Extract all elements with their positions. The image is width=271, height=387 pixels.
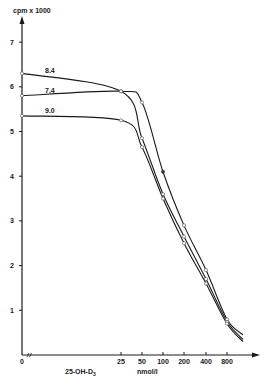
y-axis xyxy=(20,16,25,355)
chart-figure: 1234567 02550100200400800 cpm x 1000 25-… xyxy=(0,0,271,387)
data-point xyxy=(119,119,122,122)
data-point xyxy=(161,197,164,200)
x-tick-label: 200 xyxy=(178,358,190,365)
x-axis-unit: nmol/l xyxy=(137,368,158,375)
x-axis-title: 25-OH-D3 xyxy=(65,368,96,377)
series-label-9.0: 9.0 xyxy=(45,107,55,114)
curve-8.4 xyxy=(22,73,243,339)
data-point xyxy=(140,101,143,104)
curve-7.4 xyxy=(22,91,243,335)
y-tick-label: 1 xyxy=(10,307,14,314)
data-point xyxy=(119,90,122,93)
data-point xyxy=(161,170,164,173)
y-tick-label: 2 xyxy=(10,262,14,269)
y-axis-arrow-icon xyxy=(20,16,25,24)
data-point xyxy=(20,72,23,75)
x-tick-label: 0 xyxy=(20,358,24,365)
x-tick-label: 100 xyxy=(157,358,169,365)
x-axis xyxy=(22,353,260,358)
data-point xyxy=(20,114,23,117)
data-point xyxy=(182,235,185,238)
y-tick-label: 6 xyxy=(10,83,14,90)
data-point xyxy=(182,224,185,227)
x-tick-label: 50 xyxy=(138,358,146,365)
data-point xyxy=(140,137,143,140)
x-tick-label: 25 xyxy=(117,358,125,365)
y-tick-label: 7 xyxy=(10,39,14,46)
data-point xyxy=(182,242,185,245)
y-ticks: 1234567 xyxy=(10,39,22,314)
series-labels: 8.47.49.0 xyxy=(45,67,55,114)
data-point xyxy=(20,94,23,97)
series-curves xyxy=(22,73,243,341)
data-point xyxy=(204,268,207,271)
x-axis-arrow-icon xyxy=(252,353,260,358)
data-point xyxy=(225,322,228,325)
y-axis-title: cpm x 1000 xyxy=(13,7,51,15)
data-point xyxy=(204,282,207,285)
data-point xyxy=(140,146,143,149)
y-tick-label: 3 xyxy=(10,217,14,224)
curve-9.0 xyxy=(22,116,243,342)
series-label-7.4: 7.4 xyxy=(45,87,55,94)
y-tick-label: 4 xyxy=(10,173,14,180)
data-point xyxy=(204,277,207,280)
x-tick-label: 400 xyxy=(200,358,212,365)
data-point xyxy=(225,318,228,321)
x-tick-label: 800 xyxy=(221,358,233,365)
x-ticks: 02550100200400800 xyxy=(20,352,233,365)
data-point xyxy=(161,192,164,195)
y-tick-label: 5 xyxy=(10,128,14,135)
series-label-8.4: 8.4 xyxy=(45,67,55,74)
